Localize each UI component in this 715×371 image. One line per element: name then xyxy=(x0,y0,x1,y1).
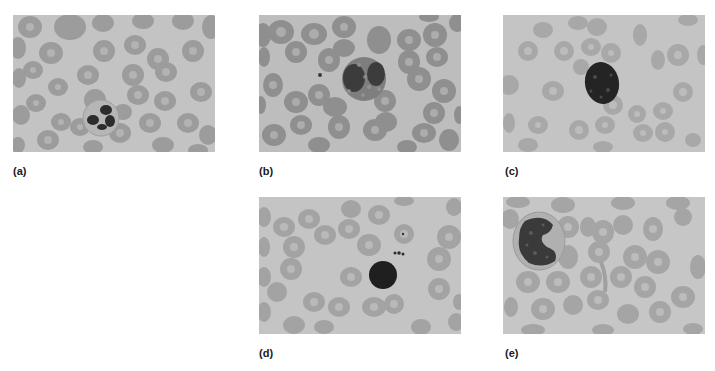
micrograph-image-lymphocyte xyxy=(259,197,461,334)
micrograph-panel-c xyxy=(503,15,705,152)
panel-label-b: (b) xyxy=(259,165,273,177)
panel-label-c: (c) xyxy=(505,165,518,177)
panel-label-a: (a) xyxy=(13,165,26,177)
micrograph-panel-b xyxy=(259,15,461,152)
micrograph-panel-e xyxy=(503,197,705,334)
micrograph-panel-a xyxy=(13,15,215,152)
micrograph-image-monocyte xyxy=(503,197,705,334)
micrograph-image-eosinophil xyxy=(259,15,461,152)
micrograph-image-neutrophil xyxy=(13,15,215,152)
panel-label-e: (e) xyxy=(505,347,518,359)
micrograph-panel-d xyxy=(259,197,461,334)
micrograph-image-basophil xyxy=(503,15,705,152)
panel-label-d: (d) xyxy=(259,347,273,359)
